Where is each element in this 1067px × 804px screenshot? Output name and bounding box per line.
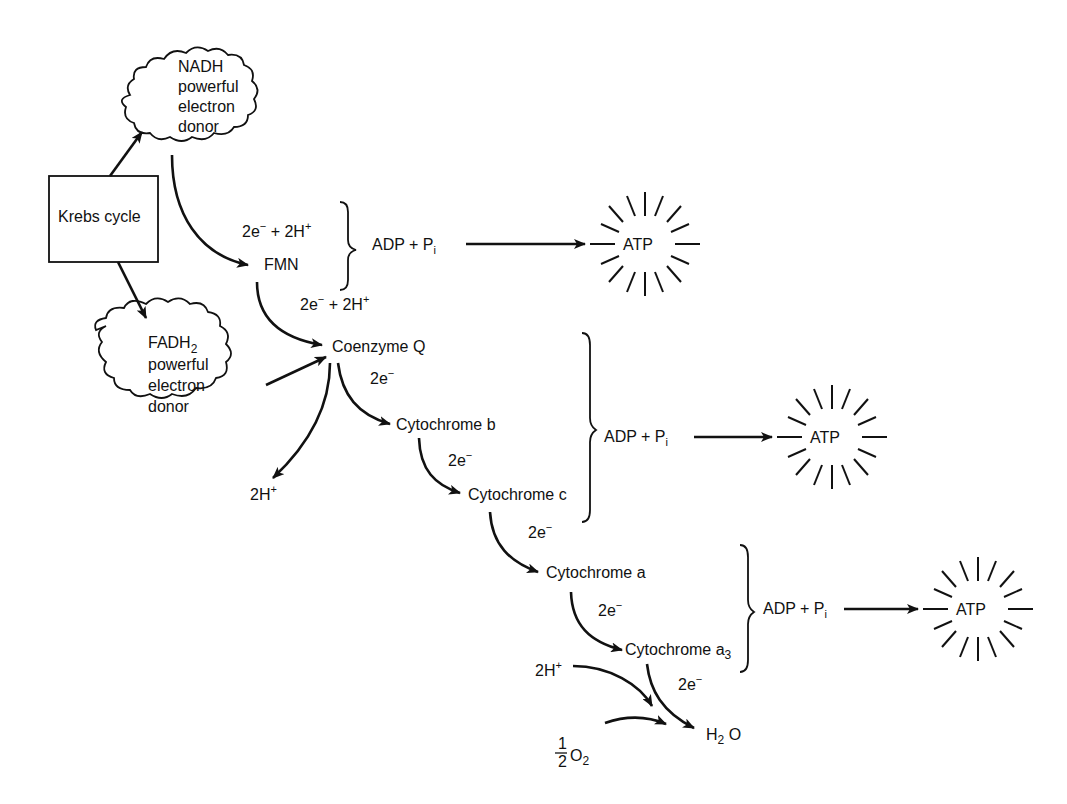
brace-site-3 — [740, 545, 754, 672]
coenzyme-q-label: Coenzyme Q — [332, 338, 425, 355]
fmn-label: FMN — [264, 256, 299, 273]
svg-text:powerful: powerful — [178, 78, 238, 95]
label-a-to-a3: 2e− — [598, 599, 622, 619]
half-o2-label: 1 2 O2 — [555, 735, 589, 770]
svg-text:electron: electron — [178, 98, 235, 115]
atp-label-3: ATP — [956, 601, 986, 618]
arrow-fmn-to-coq — [257, 282, 322, 345]
brace-site-1 — [340, 202, 356, 290]
adp-pi-2: ADP + Pi — [604, 428, 668, 448]
atp-label-2: ATP — [810, 429, 840, 446]
svg-text:electron: electron — [148, 377, 205, 394]
atp-burst-3: ATP — [923, 557, 1033, 661]
arrow-cyt-a-to-a3 — [571, 592, 622, 650]
svg-text:donor: donor — [148, 398, 190, 415]
hplus-in-label: 2H+ — [535, 659, 562, 679]
arrow-krebs-to-fadh2 — [118, 262, 146, 318]
atp-burst-2: ATP — [777, 385, 887, 489]
arrow-coq-to-hplus — [273, 363, 330, 478]
svg-text:O2: O2 — [570, 747, 589, 768]
arrow-hplus-to-h2o — [573, 666, 652, 706]
atp-label-1: ATP — [623, 236, 653, 253]
fadh2-label: FADH2 — [148, 334, 198, 356]
cytochrome-a-label: Cytochrome a — [546, 564, 646, 581]
cytochrome-b-label: Cytochrome b — [396, 416, 496, 433]
nadh-cloud: NADH powerful electron donor — [122, 47, 258, 141]
label-coq-to-cyt-b: 2e− — [370, 367, 394, 387]
cytochrome-a3-label: Cytochrome a3 — [625, 641, 732, 662]
adp-pi-1: ADP + Pi — [372, 236, 436, 256]
svg-text:1: 1 — [558, 735, 567, 752]
adp-pi-3: ADP + Pi — [763, 600, 827, 620]
nadh-label: NADH — [178, 58, 223, 75]
label-a3-to-h2o: 2e− — [678, 673, 702, 693]
brace-site-2 — [582, 333, 596, 522]
krebs-cycle-box: Krebs cycle — [49, 176, 158, 262]
h2o-label: H2 O — [706, 726, 741, 747]
hplus-out-label: 2H+ — [250, 483, 277, 503]
svg-text:2: 2 — [558, 753, 567, 770]
label-fmn-to-coq: 2e− + 2H+ — [300, 293, 369, 313]
label-b-to-c: 2e− — [448, 449, 472, 469]
fadh2-cloud: FADH2 powerful electron donor — [95, 298, 231, 415]
arrow-cyt-a3-to-h2o — [647, 664, 694, 728]
atp-burst-1: ATP — [590, 192, 700, 296]
label-nadh-to-fmn: 2e− + 2H+ — [242, 220, 311, 240]
cytochrome-c-label: Cytochrome c — [468, 486, 567, 503]
svg-text:powerful: powerful — [148, 356, 208, 373]
svg-text:donor: donor — [178, 118, 220, 135]
arrow-krebs-to-nadh — [110, 132, 142, 176]
arrow-cyt-c-to-a — [490, 512, 538, 572]
arrow-nadh-to-fmn — [172, 155, 248, 265]
label-c-to-a: 2e− — [528, 521, 552, 541]
electron-transport-diagram: NADH powerful electron donor Krebs cycle… — [0, 0, 1067, 804]
krebs-cycle-label: Krebs cycle — [58, 208, 141, 225]
arrow-o2-to-h2o — [605, 718, 666, 725]
arrow-fadh2-to-coq — [266, 357, 326, 385]
